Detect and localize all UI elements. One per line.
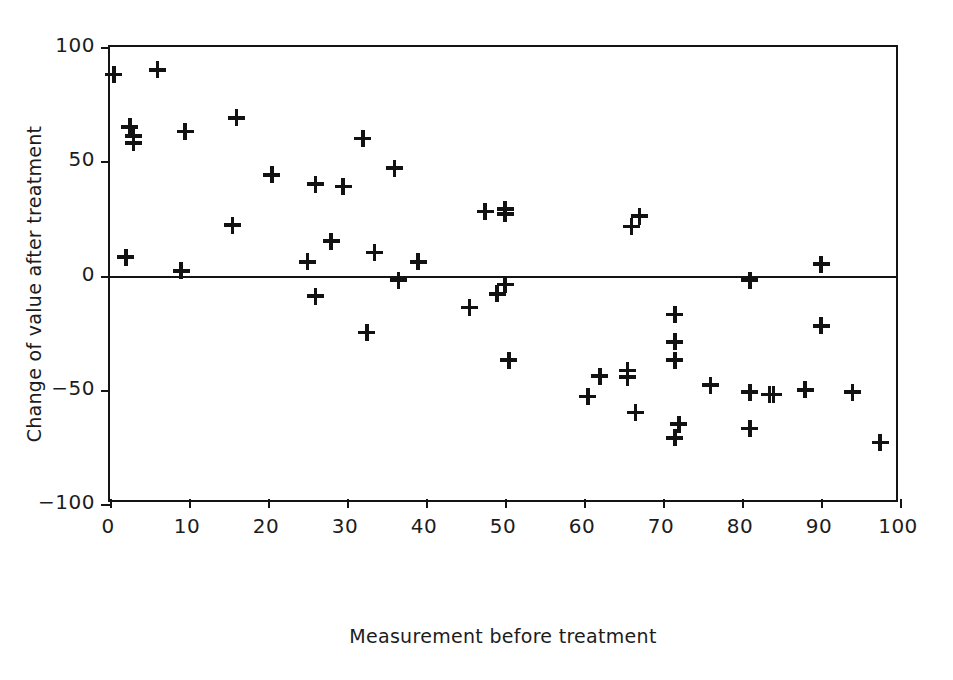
x-tick-label: 70 — [648, 514, 674, 538]
x-tick-label: 90 — [806, 514, 832, 538]
x-tick-label: 40 — [411, 514, 437, 538]
x-tick-label: 20 — [253, 514, 279, 538]
x-tick-label: 50 — [490, 514, 516, 538]
x-tick-label: 80 — [727, 514, 753, 538]
y-tick-labels: −100−50050100 — [0, 0, 953, 680]
y-tick-label: −50 — [5, 376, 95, 400]
x-tick-label: 100 — [878, 514, 918, 538]
y-tick-label: 0 — [5, 262, 95, 286]
scatter-plot-figure: −100−50050100 0102030405060708090100 Mea… — [0, 0, 953, 680]
x-tick-label: 10 — [174, 514, 200, 538]
x-tick-label: 60 — [569, 514, 595, 538]
y-tick-label: 50 — [5, 147, 95, 171]
y-tick-label: 100 — [5, 33, 95, 57]
x-tick-label: 0 — [101, 514, 114, 538]
x-axis-title: Measurement before treatment — [108, 625, 898, 647]
y-tick-label: −100 — [5, 490, 95, 514]
x-tick-label: 30 — [332, 514, 358, 538]
y-axis-title: Change of value after treatment — [23, 54, 45, 514]
